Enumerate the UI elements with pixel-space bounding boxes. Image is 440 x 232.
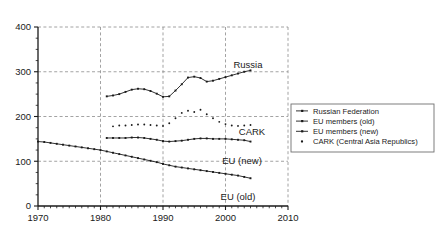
series-marker [212,117,214,119]
series-marker [175,117,177,119]
series-marker [118,125,120,127]
series-marker [243,176,245,178]
series-marker [225,173,227,175]
series-marker [175,140,177,142]
series-marker [212,80,214,82]
y-tick-label: 300 [15,66,31,77]
series-marker [156,125,158,127]
series-marker [125,137,127,139]
series-marker [50,142,52,144]
y-tick-label: 200 [15,111,31,122]
series-marker [131,137,133,139]
legend-marker-dot [301,140,303,142]
series-marker [206,113,208,115]
series-marker [118,137,120,139]
series-marker [193,138,195,140]
legend-label: Russian Federation [313,107,379,116]
series-label-in-plot: EU (new) [222,155,262,166]
series-marker [150,138,152,140]
series-marker [206,81,208,83]
legend-marker-square [301,130,303,132]
chart-figure: 0100200300400 19701980199020002010 Russi… [0,0,440,232]
series-marker [181,167,183,169]
series-marker [181,112,183,114]
series-marker [237,73,239,75]
series-marker [137,88,139,90]
series-marker [106,150,108,152]
series-marker [112,152,114,154]
legend-marker-square [301,110,303,112]
series-marker [200,77,202,79]
series-marker [162,96,164,98]
series-marker [143,159,145,161]
series-marker [250,141,252,143]
x-tick-label: 2010 [277,212,298,223]
y-tick-label: 0 [26,200,31,211]
series-marker [87,147,89,149]
series-marker [187,77,189,79]
series-marker [193,76,195,78]
series-marker [237,175,239,177]
series-marker [156,93,158,95]
series-marker [137,124,139,126]
series-marker [106,137,108,139]
series-marker [156,161,158,163]
series-marker [231,174,233,176]
y-tick-label: 100 [15,156,31,167]
y-tick-label: 400 [15,21,31,32]
series-marker [225,123,227,125]
series-marker [100,149,102,151]
series-marker [193,168,195,170]
series-marker [225,138,227,140]
series-marker [143,88,145,90]
series-label-in-plot: EU (old) [221,191,256,202]
series-marker [181,140,183,142]
series-marker [193,111,195,113]
series-marker [62,144,64,146]
series-marker [187,167,189,169]
series-marker [175,90,177,92]
series-marker [231,125,233,127]
series-marker [143,137,145,139]
series-marker [187,139,189,141]
series-marker [187,110,189,112]
series-marker [231,138,233,140]
series-marker [212,138,214,140]
legend-label: CARK (Central Asia Republics) [313,137,418,146]
series-marker [162,140,164,142]
series-marker [150,160,152,162]
series-marker [168,164,170,166]
series-marker [156,139,158,141]
series-marker [218,138,220,140]
series-marker [137,157,139,159]
series-marker [112,137,114,139]
series-marker [237,139,239,141]
series-marker [131,89,133,91]
series-marker [200,169,202,171]
series-marker [200,137,202,139]
series-marker [150,124,152,126]
legend-item-4[interactable]: CARK (Central Asia Republics) [301,137,418,146]
series-marker [250,177,252,179]
x-tick-label: 1970 [27,212,48,223]
series-marker [231,74,233,76]
series-label-in-plot: Russia [233,59,263,70]
series-marker [168,95,170,97]
series-marker [168,122,170,124]
series-marker [112,125,114,127]
series-marker [200,109,202,111]
series-marker [175,166,177,168]
series-marker [243,139,245,141]
series-marker [75,146,77,148]
line-chart: 0100200300400 19701980199020002010 Russi… [0,0,440,232]
legend-marker-square [301,120,303,122]
series-marker [125,91,127,93]
legend: Russian FederationEU members (old)EU mem… [291,104,434,152]
series-marker [125,125,127,127]
series-marker [93,148,95,150]
series-marker [68,145,70,147]
series-marker [56,143,58,145]
legend-label: EU members (old) [313,117,375,126]
x-tick-label: 1990 [152,212,173,223]
series-marker [218,121,220,123]
